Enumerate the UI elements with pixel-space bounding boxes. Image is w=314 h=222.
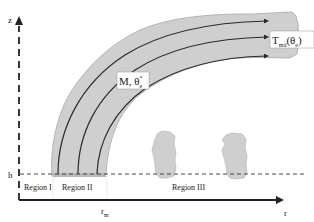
detached-puff-2 (222, 133, 247, 179)
outflow-label-arg-open: (θ (286, 34, 295, 47)
outflow-label: Tmd(θe) (272, 34, 302, 48)
plume-label: M, θ*e (119, 75, 143, 89)
rm-label: rm (101, 206, 109, 218)
r-axis-label: r (284, 208, 287, 218)
h-label: h (8, 170, 13, 180)
outflow-label-sub: md (279, 42, 287, 48)
region-3-label: Region III (172, 183, 205, 192)
plume-label-sup: * (140, 75, 143, 81)
rm-label-sub: m (104, 212, 109, 218)
plume-label-sub: e (140, 83, 143, 89)
plume-label-main: M, θ (119, 75, 140, 87)
region-2-label: Region II (62, 183, 93, 192)
plume-diagram: z r h rm Region I Region II Region III M… (0, 0, 314, 222)
region-1-label: Region I (24, 183, 52, 192)
z-axis-label: z (8, 15, 12, 25)
detached-puff-1 (152, 131, 176, 178)
z-axis-arrowhead (15, 16, 23, 25)
outflow-label-arg-close: ) (298, 34, 302, 47)
